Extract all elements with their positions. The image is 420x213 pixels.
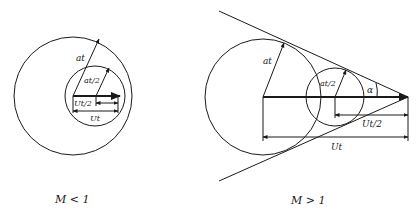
right-diagram bbox=[205, 11, 408, 181]
label-ut-half-left: Ut/2 bbox=[74, 99, 92, 108]
label-at-right: at bbox=[263, 56, 272, 66]
alpha-angle-arc bbox=[376, 83, 377, 97]
caption-left: M < 1 bbox=[54, 193, 89, 206]
upper-tangent-line bbox=[219, 11, 408, 97]
at-half-radius-arrow bbox=[335, 70, 346, 97]
lower-tangent-line bbox=[219, 97, 408, 181]
label-at-half-left: at/2 bbox=[84, 76, 100, 85]
at-radius-arrow bbox=[263, 43, 284, 97]
label-at-half-right: at/2 bbox=[320, 79, 336, 88]
left-diagram bbox=[14, 37, 132, 155]
at-radius-arrow bbox=[73, 39, 99, 96]
label-ut-left: Ut bbox=[90, 114, 101, 123]
label-alpha: α bbox=[367, 85, 373, 95]
label-ut-right: Ut bbox=[331, 142, 343, 152]
label-at-left: at bbox=[76, 53, 85, 63]
label-ut-half-right: Ut/2 bbox=[362, 119, 382, 129]
caption-right: M > 1 bbox=[290, 194, 325, 207]
figure: at at/2 Ut/2 Ut M < 1 at at/2 α Ut/2 Ut … bbox=[0, 0, 420, 213]
